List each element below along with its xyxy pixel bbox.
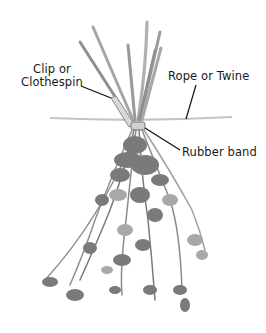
rope-leader-line <box>186 85 196 119</box>
herb-bundle-illustration <box>0 0 266 333</box>
rubber-band <box>131 122 145 130</box>
clip-leader-line <box>81 86 111 98</box>
label-rope-or-twine: Rope or Twine <box>168 70 249 83</box>
herb-drying-diagram: Clip or Clothespin Rope or Twine Rubber … <box>0 0 266 333</box>
label-clip-line2: Clothespin <box>21 76 83 89</box>
label-clip-or-clothespin: Clip or Clothespin <box>21 63 83 89</box>
label-rubber-band: Rubber band <box>182 146 257 159</box>
